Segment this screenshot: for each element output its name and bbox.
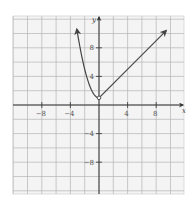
x-tick-label: 4 (124, 110, 129, 118)
y-tick-label: −8 (84, 159, 94, 167)
x-tick-label: −8 (36, 110, 46, 118)
y-tick-label: 8 (90, 44, 94, 52)
function-graph: xy−8−44884−4−8 (0, 0, 195, 210)
y-tick-label: −4 (84, 130, 95, 138)
x-axis-label: x (182, 107, 186, 115)
x-tick-label: 8 (153, 110, 157, 118)
x-tick-label: −4 (64, 110, 75, 118)
junction-point (97, 96, 101, 100)
y-tick-label: 4 (90, 73, 95, 81)
